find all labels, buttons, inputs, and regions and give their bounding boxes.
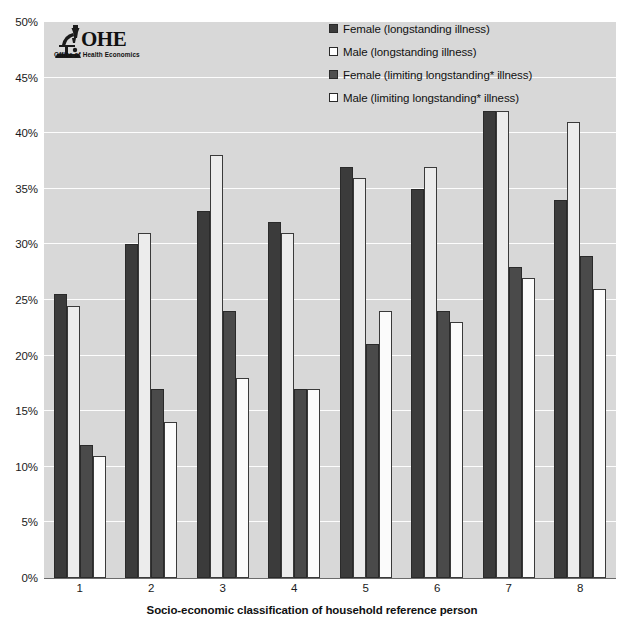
bar[interactable] bbox=[210, 155, 223, 578]
bar[interactable] bbox=[138, 233, 151, 578]
y-axis-tick-label: 50% bbox=[15, 16, 38, 28]
bar-group bbox=[54, 22, 106, 578]
legend-item-label: Male (limiting longstanding* illness) bbox=[343, 92, 519, 104]
x-axis-tick-labels: 12345678 bbox=[44, 582, 616, 600]
x-axis-tick-label: 3 bbox=[220, 582, 226, 594]
bar[interactable] bbox=[509, 267, 522, 578]
bar[interactable] bbox=[164, 422, 177, 578]
bar[interactable] bbox=[353, 178, 366, 578]
legend-swatch-icon bbox=[329, 24, 338, 33]
bar[interactable] bbox=[424, 167, 437, 578]
y-axis-tick-label: 25% bbox=[15, 294, 38, 306]
bar[interactable] bbox=[294, 389, 307, 578]
bar[interactable] bbox=[554, 200, 567, 578]
bar[interactable] bbox=[223, 311, 236, 578]
x-axis-tick-label: 2 bbox=[148, 582, 154, 594]
bar[interactable] bbox=[580, 256, 593, 578]
y-axis-tick-label: 0% bbox=[22, 572, 38, 584]
x-axis-tick-label: 5 bbox=[363, 582, 369, 594]
x-axis-tick-label: 1 bbox=[77, 582, 83, 594]
ohe-microscope-icon: OHE Office of Health Economics bbox=[53, 23, 149, 65]
y-axis-tick-label: 20% bbox=[15, 350, 38, 362]
bar-group bbox=[268, 22, 320, 578]
x-axis-tick-label: 6 bbox=[434, 582, 440, 594]
bar[interactable] bbox=[567, 122, 580, 578]
bar[interactable] bbox=[125, 244, 138, 578]
bar[interactable] bbox=[80, 445, 93, 578]
y-axis-tick-label: 35% bbox=[15, 183, 38, 195]
bar[interactable] bbox=[268, 222, 281, 578]
legend-item[interactable]: Female (limiting longstanding* illness) bbox=[329, 64, 579, 85]
bar[interactable] bbox=[366, 344, 379, 578]
chart-container: 0%5%10%15%20%25%30%35%40%45%50% 12345678… bbox=[0, 0, 624, 627]
bar-group bbox=[125, 22, 177, 578]
y-axis-tick-label: 40% bbox=[15, 127, 38, 139]
y-axis-tick-label: 45% bbox=[15, 72, 38, 84]
x-axis-title: Socio-economic classification of househo… bbox=[0, 604, 624, 616]
bar[interactable] bbox=[236, 378, 249, 578]
legend-item-label: Male (longstanding illness) bbox=[343, 46, 476, 58]
bar[interactable] bbox=[67, 306, 80, 578]
ohe-subtitle: Office of Health Economics bbox=[54, 51, 140, 58]
bar[interactable] bbox=[281, 233, 294, 578]
bar[interactable] bbox=[522, 278, 535, 578]
ohe-logo: OHE Office of Health Economics bbox=[53, 23, 149, 65]
bar[interactable] bbox=[151, 389, 164, 578]
ohe-acronym: OHE bbox=[81, 27, 126, 51]
bar[interactable] bbox=[307, 389, 320, 578]
x-axis-line bbox=[44, 578, 616, 579]
bar[interactable] bbox=[93, 456, 106, 578]
bar-group bbox=[197, 22, 249, 578]
legend-swatch-icon bbox=[329, 70, 338, 79]
x-axis-tick-label: 7 bbox=[506, 582, 512, 594]
y-axis-tick-label: 30% bbox=[15, 238, 38, 250]
legend-swatch-icon bbox=[329, 93, 338, 102]
y-axis-tick-label: 5% bbox=[22, 516, 38, 528]
x-axis-tick-label: 4 bbox=[291, 582, 297, 594]
legend-item[interactable]: Male (longstanding illness) bbox=[329, 41, 579, 62]
legend-item[interactable]: Female (longstanding illness) bbox=[329, 18, 579, 39]
bar[interactable] bbox=[197, 211, 210, 578]
bar[interactable] bbox=[483, 111, 496, 578]
chart-legend: Female (longstanding illness) Male (long… bbox=[329, 18, 579, 110]
bar[interactable] bbox=[411, 189, 424, 578]
bar[interactable] bbox=[437, 311, 450, 578]
bar[interactable] bbox=[379, 311, 392, 578]
legend-swatch-icon bbox=[329, 47, 338, 56]
bar[interactable] bbox=[496, 111, 509, 578]
bar[interactable] bbox=[593, 289, 606, 578]
bar[interactable] bbox=[450, 322, 463, 578]
legend-item[interactable]: Male (limiting longstanding* illness) bbox=[329, 87, 579, 108]
bar[interactable] bbox=[340, 167, 353, 578]
y-axis-tick-label: 15% bbox=[15, 405, 38, 417]
y-axis-tick-label: 10% bbox=[15, 461, 38, 473]
bar[interactable] bbox=[54, 294, 67, 578]
legend-item-label: Female (limiting longstanding* illness) bbox=[343, 69, 532, 81]
legend-item-label: Female (longstanding illness) bbox=[343, 23, 490, 35]
x-axis-tick-label: 8 bbox=[577, 582, 583, 594]
